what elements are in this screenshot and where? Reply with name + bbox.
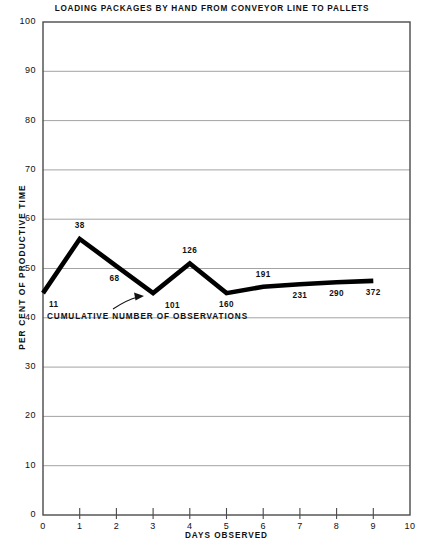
y-tick-label: 20 <box>2 410 36 420</box>
chart-container: LOADING PACKAGES BY HAND FROM CONVEYOR L… <box>0 0 424 548</box>
x-tick-label: 10 <box>398 521 422 531</box>
annotation-caption: CUMULATIVE NUMBER OF OBSERVATIONS <box>47 312 248 321</box>
y-tick-label: 100 <box>2 16 36 26</box>
data-point-label: 11 <box>49 300 58 309</box>
data-point-label: 101 <box>165 301 180 310</box>
data-point-label: 160 <box>219 300 234 309</box>
data-point-label: 126 <box>182 246 197 255</box>
data-point-label: 191 <box>256 270 271 279</box>
gridlines <box>43 71 410 465</box>
x-axis-ticks <box>80 508 374 519</box>
x-tick-label: 2 <box>104 521 128 531</box>
x-tick-label: 3 <box>141 521 165 531</box>
y-tick-label: 80 <box>2 115 36 125</box>
y-tick-label: 10 <box>2 460 36 470</box>
x-tick-label: 1 <box>68 521 92 531</box>
y-tick-label: 90 <box>2 65 36 75</box>
y-tick-label: 0 <box>2 509 36 519</box>
x-tick-label: 4 <box>178 521 202 531</box>
y-tick-label: 30 <box>2 361 36 371</box>
data-point-label: 372 <box>366 288 381 297</box>
data-point-label: 38 <box>75 221 85 230</box>
data-line <box>43 239 373 293</box>
x-tick-label: 6 <box>251 521 275 531</box>
y-tick-label: 60 <box>2 213 36 223</box>
y-tick-label: 70 <box>2 164 36 174</box>
x-tick-label: 7 <box>288 521 312 531</box>
x-tick-label: 8 <box>325 521 349 531</box>
annotation-arrow-icon <box>113 293 144 310</box>
x-tick-label: 0 <box>31 521 55 531</box>
plot-canvas <box>0 0 424 548</box>
x-tick-label: 9 <box>361 521 385 531</box>
x-tick-label: 5 <box>215 521 239 531</box>
y-tick-label: 40 <box>2 312 36 322</box>
data-point-label: 231 <box>292 291 307 300</box>
data-point-label: 290 <box>329 289 344 298</box>
data-point-label: 68 <box>109 274 119 283</box>
y-tick-label: 50 <box>2 263 36 273</box>
